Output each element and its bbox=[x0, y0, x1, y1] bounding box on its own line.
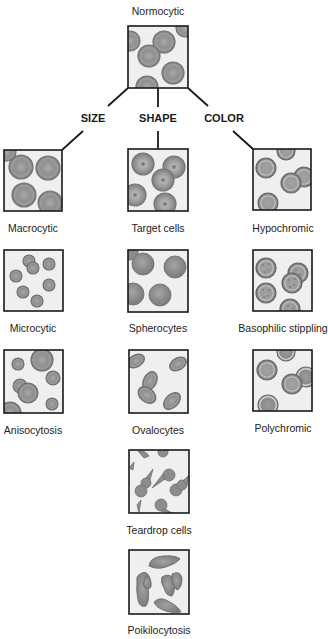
label-spherocytes: Spherocytes bbox=[129, 322, 187, 334]
node-hypochromic: Hypochromic bbox=[252, 142, 314, 234]
label-microcytic: Microcytic bbox=[10, 322, 57, 334]
label-poikilocytosis: Poikilocytosis bbox=[127, 624, 190, 636]
node-target-cells: Target cells bbox=[124, 149, 188, 234]
label-normocytic: Normocytic bbox=[132, 5, 185, 17]
category-color: COLOR bbox=[204, 112, 244, 124]
label-macrocytic: Macrocytic bbox=[8, 222, 58, 234]
label-polychromic: Polychromic bbox=[254, 422, 311, 434]
rbc-morphology-diagram: Normocytic SIZE SHAPE COLOR Macrocytic bbox=[0, 0, 328, 639]
node-poikilocytosis: Poikilocytosis bbox=[127, 550, 190, 636]
category-size: SIZE bbox=[81, 112, 105, 124]
label-target-cells: Target cells bbox=[131, 222, 184, 234]
node-normocytic: Normocytic bbox=[120, 5, 194, 98]
label-teardrop-cells: Teardrop cells bbox=[126, 524, 191, 536]
node-microcytic: Microcytic bbox=[4, 250, 63, 334]
node-teardrop-cells: Teardrop cells bbox=[126, 447, 191, 536]
label-anisocytosis: Anisocytosis bbox=[4, 424, 62, 436]
category-shape: SHAPE bbox=[139, 112, 177, 124]
label-basophilic-stippling: Basophilic stippling bbox=[238, 322, 327, 334]
node-macrocytic: Macrocytic bbox=[0, 143, 62, 234]
node-anisocytosis: Anisocytosis bbox=[0, 349, 63, 436]
node-basophilic-stippling: Basophilic stippling bbox=[238, 250, 327, 334]
node-ovalocytes: Ovalocytes bbox=[125, 350, 189, 436]
label-hypochromic: Hypochromic bbox=[252, 222, 313, 234]
label-ovalocytes: Ovalocytes bbox=[132, 424, 184, 436]
node-polychromic: Polychromic bbox=[253, 343, 316, 434]
node-spherocytes: Spherocytes bbox=[122, 244, 188, 334]
